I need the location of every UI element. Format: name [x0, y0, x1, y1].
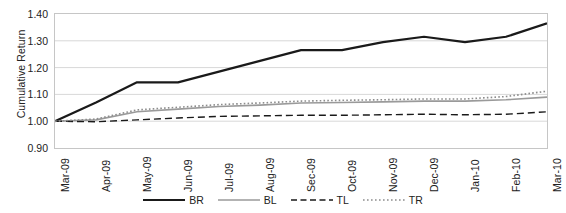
legend-label: BL	[264, 194, 277, 206]
x-axis-tick-label: Oct-09	[346, 160, 358, 192]
y-axis-tick-labels: 1.401.301.201.101.000.90	[8, 0, 48, 160]
x-axis-tick-label: Aug-09	[264, 158, 276, 192]
legend-item-bl[interactable]: BL	[218, 194, 277, 206]
legend-line-swatch-icon	[363, 195, 405, 205]
series-canvas	[55, 14, 547, 148]
x-axis-tick-label: Apr-09	[100, 160, 112, 192]
chart-legend: BRBLTLTR	[0, 190, 566, 210]
y-axis-tick-label: 1.10	[12, 89, 48, 99]
x-axis-tick-label: May-09	[141, 156, 153, 192]
series-line-tr	[55, 91, 547, 121]
legend-item-tr[interactable]: TR	[363, 194, 423, 206]
plot-area	[54, 13, 548, 149]
y-axis-tick-label: 1.20	[12, 63, 48, 73]
legend-line-swatch-icon	[218, 195, 260, 205]
x-axis-tick-label: Feb-10	[510, 158, 522, 192]
y-axis-tick-label: 1.30	[12, 36, 48, 46]
x-axis-tick-label: Jan-10	[469, 159, 481, 192]
y-axis-tick-label: 1.40	[12, 9, 48, 19]
x-axis-tick-label: Dec-09	[428, 158, 440, 192]
x-axis-tick-label: Jun-09	[182, 159, 194, 192]
legend-line-swatch-icon	[143, 195, 185, 205]
series-line-br	[55, 23, 547, 121]
legend-item-br[interactable]: BR	[143, 194, 204, 206]
x-axis-tick-label: Nov-09	[387, 158, 399, 192]
y-axis-tick-label: 1.00	[12, 116, 48, 126]
x-axis-tick-label: Mar-09	[59, 158, 71, 192]
cumulative-return-chart: Cumulative Return 1.401.301.201.101.000.…	[0, 0, 566, 213]
legend-label: BR	[189, 194, 204, 206]
legend-label: TR	[409, 194, 423, 206]
legend-label: TL	[337, 194, 349, 206]
legend-line-swatch-icon	[291, 195, 333, 205]
x-axis-tick-label: Jul-09	[223, 163, 235, 192]
legend-item-tl[interactable]: TL	[291, 194, 349, 206]
x-axis-tick-label: Sec-09	[305, 158, 317, 192]
x-axis-tick-label: Mar-10	[551, 158, 563, 192]
